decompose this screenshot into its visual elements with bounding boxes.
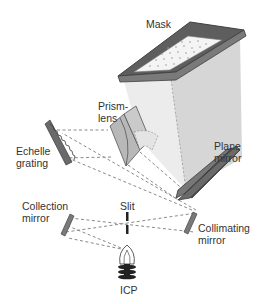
label-collimating-mirror-line1: Collimating (198, 222, 250, 234)
label-icp: ICP (120, 284, 138, 296)
label-prism-lens-line2: lens (98, 112, 117, 124)
label-collection-mirror-line2: mirror (22, 212, 49, 224)
collimating-mirror (184, 212, 197, 234)
label-collection-mirror-line1: Collection (22, 200, 68, 212)
icp-torch (118, 245, 136, 279)
label-plane-mirror-line2: mirror (214, 152, 241, 164)
label-echelle-line1: Echelle (16, 145, 50, 157)
label-slit: Slit (120, 200, 135, 212)
label-echelle-line2: grating (16, 157, 48, 169)
collection-mirror (61, 214, 74, 236)
label-plane-mirror-line1: Plane (214, 140, 241, 152)
label-prism-lens-line1: Prism- (98, 100, 128, 112)
label-collimating-mirror-line2: mirror (198, 234, 225, 246)
label-mask: Mask (146, 18, 171, 30)
spectrometer-diagram: Mask Prism- lens Echelle grating Plane m… (0, 0, 260, 304)
